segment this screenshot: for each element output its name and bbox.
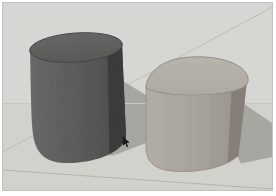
screenshot-frame [0, 0, 276, 196]
dark-cylinder[interactable] [29, 30, 126, 163]
light-cylinder[interactable] [146, 57, 248, 172]
viewport-canvas[interactable] [0, 0, 276, 196]
